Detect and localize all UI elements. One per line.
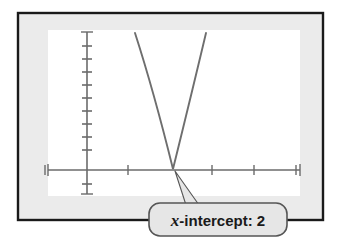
callout-variable: x bbox=[170, 211, 180, 230]
callout-label: x-intercept: 2 bbox=[170, 211, 265, 230]
callout-text: -intercept: 2 bbox=[179, 212, 265, 229]
callout-bubble[interactable]: x-intercept: 2 bbox=[149, 203, 287, 236]
parabola-graph-figure: x-intercept: 2 bbox=[0, 0, 345, 251]
plot-canvas bbox=[48, 30, 300, 196]
